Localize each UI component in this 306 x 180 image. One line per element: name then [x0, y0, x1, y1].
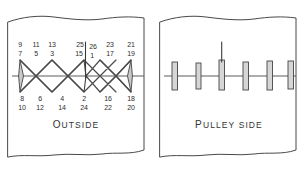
panel-pulley-caption: PULLEY SIDE — [195, 119, 263, 130]
staple-bar-3 — [219, 60, 225, 90]
lacing-diagram-figure: 9 11 13 25 26 23 21 7 5 3 15 1 17 19 8 6… — [0, 0, 306, 180]
stitch-number-bottom-3-lower: 14 — [58, 104, 66, 111]
staple-bar-4 — [243, 62, 249, 90]
stitch-number-top-3-upper: 13 — [48, 41, 56, 48]
stitch-number-top-3-lower: 3 — [50, 50, 54, 57]
stitch-number-bottom-1-lower: 10 — [18, 104, 26, 111]
lace-end-right — [128, 60, 133, 92]
stitch-number-top-1-upper: 9 — [18, 41, 22, 48]
stitch-number-top-6-lower: 17 — [106, 50, 114, 57]
stitch-number-top-4-upper: 25 — [76, 41, 84, 48]
panel-outside-caption: OUTSIDE — [53, 119, 100, 130]
stitch-number-top-5-upper: 26 — [89, 43, 97, 50]
stitch-number-bottom-5-upper: 16 — [104, 95, 112, 102]
staple-bar-5 — [267, 61, 273, 90]
staple-bar-2 — [196, 63, 201, 89]
stitch-number-top-2-upper: 11 — [33, 41, 40, 48]
stitch-number-bottom-2-upper: 6 — [38, 95, 42, 102]
panel-pulley-side: PULLEY SIDE — [160, 16, 296, 157]
stitch-number-bottom-1-upper: 8 — [20, 95, 24, 102]
stitch-number-top-7-lower: 19 — [127, 50, 135, 57]
stitch-number-bottom-6-upper: 18 — [127, 95, 135, 102]
stitch-number-top-1-lower: 7 — [18, 50, 22, 57]
stitch-number-top-4-lower: 15 — [75, 50, 83, 57]
staple-bar-6 — [288, 61, 294, 89]
panel-outside-caption-initial: O — [53, 119, 62, 130]
stitch-number-top-5-lower: 1 — [90, 52, 94, 59]
panel-outside: 9 11 13 25 26 23 21 7 5 3 15 1 17 19 8 6… — [8, 16, 144, 157]
stitch-number-bottom-2-lower: 12 — [36, 104, 44, 111]
stitch-number-top-6-upper: 23 — [106, 41, 114, 48]
stitch-number-top-2-lower: 5 — [34, 50, 38, 57]
staple-bar-1 — [172, 62, 178, 90]
stitch-number-top-7-upper: 21 — [127, 41, 135, 48]
panel-pulley-caption-tail: IDE — [245, 120, 262, 130]
stitch-number-bottom-4-upper: 2 — [82, 95, 86, 102]
stitch-number-bottom-4-lower: 24 — [80, 104, 88, 111]
figure-canvas: 9 11 13 25 26 23 21 7 5 3 15 1 17 19 8 6… — [0, 0, 306, 180]
stitch-number-bottom-5-lower: 22 — [104, 104, 112, 111]
stitch-number-bottom-6-lower: 20 — [127, 104, 135, 111]
panel-pulley-caption-rest: ULLEY S — [203, 120, 246, 130]
panel-outside-border — [8, 16, 144, 157]
panel-pulley-caption-initial: P — [195, 119, 203, 130]
panel-pulley-border — [160, 16, 296, 157]
panel-outside-caption-rest: UTSIDE — [62, 120, 100, 130]
lace-end-left — [19, 60, 24, 92]
stitch-number-bottom-3-upper: 4 — [60, 95, 64, 102]
